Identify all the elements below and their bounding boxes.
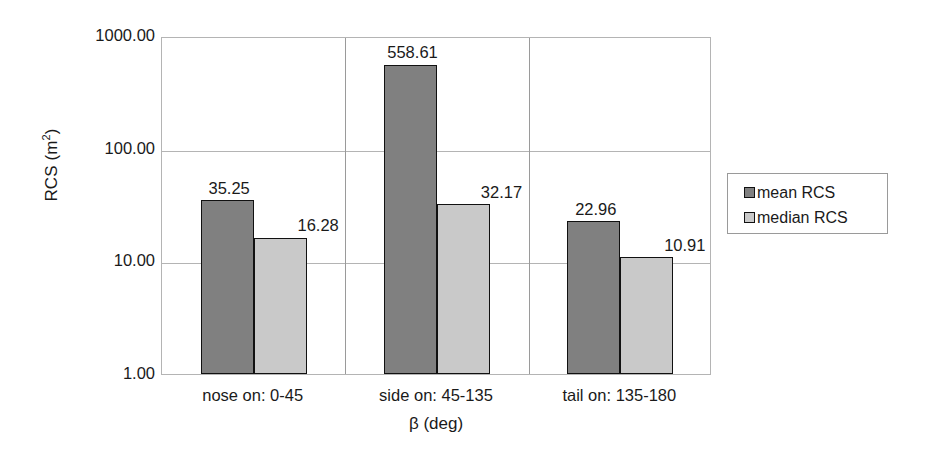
legend-item-mean-rcs[interactable]: mean RCS (744, 181, 887, 204)
x-axis-category-label-1: nose on: 0-45 (161, 386, 344, 405)
bar-value-label-median-rcs-3: 10.91 (638, 236, 731, 255)
bar-mean-rcs-1[interactable] (201, 200, 254, 374)
y-axis-tick-label: 1000.00 (63, 26, 155, 45)
legend-swatch-icon (744, 187, 755, 198)
chart-legend: mean RCSmedian RCS (727, 173, 888, 234)
bar-value-label-median-rcs-1: 16.28 (272, 216, 365, 235)
bar-value-label-mean-rcs-1: 35.25 (183, 179, 276, 198)
gridline-vertical (529, 38, 530, 374)
rcs-bar-chart: RCS (m2) 1000.00100.0010.001.00 35.2516.… (0, 0, 929, 456)
y-axis-title-exponent: 2 (40, 134, 52, 140)
bar-median-rcs-2[interactable] (437, 204, 490, 374)
bar-mean-rcs-3[interactable] (567, 221, 620, 374)
bar-mean-rcs-2[interactable] (384, 65, 437, 375)
y-axis-tick-label: 1.00 (63, 364, 155, 383)
gridline-vertical (345, 38, 346, 374)
bar-median-rcs-3[interactable] (620, 257, 673, 374)
y-axis-tick-label: 100.00 (63, 139, 155, 158)
bar-value-label-median-rcs-2: 32.17 (455, 183, 548, 202)
x-axis-title: β (deg) (161, 414, 711, 434)
y-axis-tick-labels: 1000.00100.0010.001.00 (55, 0, 155, 456)
plot-area: 35.2516.28558.6132.1722.9610.91 (161, 37, 711, 375)
bar-median-rcs-1[interactable] (254, 238, 307, 375)
bar-value-label-mean-rcs-2: 558.61 (366, 43, 459, 62)
y-axis-tick-label: 10.00 (63, 251, 155, 270)
bar-value-label-mean-rcs-3: 22.96 (549, 200, 642, 219)
legend-swatch-icon (744, 212, 755, 223)
x-axis-category-label-3: tail on: 135-180 (528, 386, 711, 405)
legend-item-median-rcs[interactable]: median RCS (744, 206, 887, 229)
legend-item-label: mean RCS (757, 184, 835, 202)
x-axis-category-label-2: side on: 45-135 (344, 386, 527, 405)
legend-item-label: median RCS (757, 209, 848, 227)
